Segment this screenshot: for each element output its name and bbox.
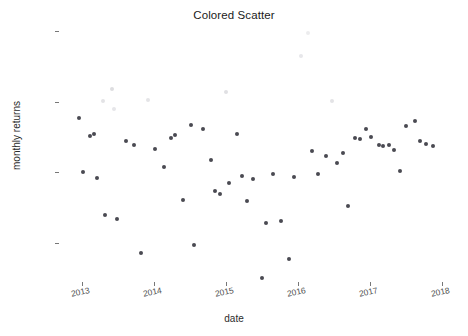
data-point (398, 169, 402, 173)
data-point (132, 143, 136, 147)
x-axis-title: date (0, 313, 468, 324)
data-point (431, 144, 435, 148)
data-point (209, 158, 213, 162)
data-point (335, 161, 339, 165)
data-point (279, 219, 283, 223)
data-point (377, 143, 381, 147)
data-point (213, 189, 217, 193)
data-point (346, 204, 350, 208)
data-point (364, 127, 368, 131)
data-point (387, 143, 391, 147)
x-tick-label: 2014 (142, 285, 163, 299)
data-point (287, 257, 291, 261)
data-point (224, 90, 228, 94)
data-point (189, 123, 193, 127)
data-point (95, 176, 99, 180)
data-point (139, 251, 143, 255)
data-point (251, 177, 255, 181)
data-point (92, 132, 96, 136)
y-tick-mark (55, 172, 59, 173)
data-point (115, 217, 119, 221)
data-point (169, 136, 173, 140)
data-point (413, 119, 417, 123)
data-point (324, 154, 328, 158)
data-point (292, 175, 296, 179)
data-point (201, 127, 205, 131)
data-point (192, 243, 196, 247)
x-tick-label: 2013 (70, 285, 91, 299)
data-point (353, 136, 357, 140)
plot-panel: 0.080.040.00-0.04 2013201420152016201720… (60, 22, 460, 282)
data-point (235, 132, 239, 136)
y-tick-mark (55, 243, 59, 244)
y-tick-mark (55, 31, 59, 32)
y-tick-mark (55, 102, 59, 103)
data-point (404, 124, 408, 128)
data-point (146, 98, 150, 102)
x-tick-label: 2015 (214, 285, 235, 299)
data-point (316, 172, 320, 176)
data-point (341, 151, 345, 155)
data-point (112, 107, 116, 111)
data-point (330, 99, 334, 103)
data-point (227, 181, 231, 185)
data-point (310, 149, 314, 153)
data-point (103, 213, 107, 217)
data-point (77, 116, 81, 120)
scatter-plot-figure: Colored Scatter monthly returns date 0.0… (0, 0, 468, 336)
data-point (101, 99, 105, 103)
data-point (81, 170, 85, 174)
x-tick-label: 2018 (430, 285, 451, 299)
data-point (173, 133, 177, 137)
data-point (358, 137, 362, 141)
data-point (392, 148, 396, 152)
data-point (124, 139, 128, 143)
data-point (153, 147, 157, 151)
data-point (418, 139, 422, 143)
data-point (181, 198, 185, 202)
data-point (424, 142, 428, 146)
chart-title: Colored Scatter (0, 9, 468, 21)
data-point (162, 165, 166, 169)
data-point (381, 144, 385, 148)
data-point (110, 87, 114, 91)
y-axis-title: monthly returns (11, 76, 22, 196)
data-point (218, 192, 222, 196)
data-point (260, 276, 264, 280)
data-point (240, 174, 244, 178)
data-point (264, 221, 268, 225)
data-point (299, 54, 303, 58)
data-point (306, 31, 310, 35)
data-point (245, 199, 249, 203)
x-tick-label: 2016 (286, 285, 307, 299)
data-point (369, 135, 373, 139)
x-tick-label: 2017 (358, 285, 379, 299)
data-point (271, 172, 275, 176)
